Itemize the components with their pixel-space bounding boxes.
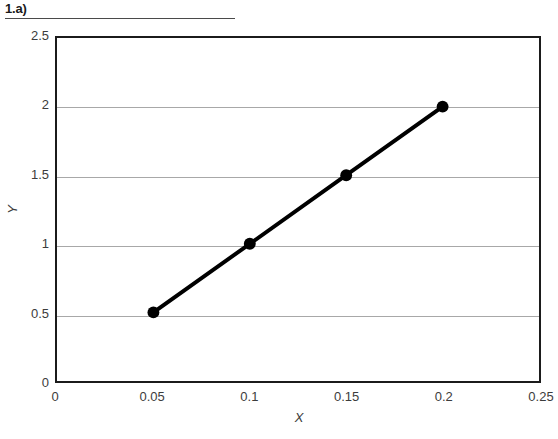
y-tick-label: 0.5 bbox=[1, 307, 49, 320]
header-divider bbox=[5, 18, 235, 19]
y-tick-label: 2.5 bbox=[1, 29, 49, 42]
header: 1.a) bbox=[0, 0, 558, 24]
plot-area bbox=[55, 36, 541, 383]
data-point-marker bbox=[340, 169, 352, 181]
data-point-marker bbox=[147, 306, 159, 318]
x-tick-label: 0.25 bbox=[501, 390, 558, 404]
y-tick-label: 1.5 bbox=[1, 168, 49, 181]
x-tick-label: 0.05 bbox=[112, 390, 192, 404]
x-tick-label: 0 bbox=[15, 390, 95, 404]
x-tick-label: 0.2 bbox=[404, 390, 484, 404]
data-series bbox=[57, 38, 539, 381]
data-point-marker bbox=[437, 101, 449, 113]
y-tick-label: 0 bbox=[1, 376, 49, 389]
y-axis-title: Y bbox=[5, 185, 20, 235]
y-tick-label: 1 bbox=[1, 237, 49, 250]
data-point-marker bbox=[244, 238, 256, 250]
x-tick-label: 0.1 bbox=[209, 390, 289, 404]
chart-figure: 1.a) 00.511.522.5 Y 00.050.10.150.20.25 … bbox=[0, 0, 558, 439]
series-line bbox=[153, 107, 442, 313]
x-tick-label: 0.15 bbox=[307, 390, 387, 404]
page-title: 1.a) bbox=[5, 1, 27, 16]
x-axis-tick-labels: 00.050.10.150.20.25 bbox=[0, 390, 558, 408]
y-tick-label: 2 bbox=[1, 98, 49, 111]
x-axis-title: X bbox=[259, 410, 339, 425]
